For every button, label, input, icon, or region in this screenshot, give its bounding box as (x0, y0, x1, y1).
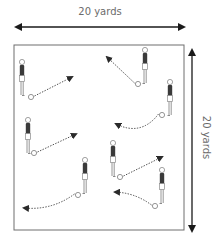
player-shorts-icon (20, 76, 25, 82)
player-head-icon (159, 167, 164, 172)
player-C (116, 79, 173, 128)
ball-icon (75, 192, 80, 197)
pass-arrow-icon (24, 194, 75, 208)
player-shorts-icon (83, 174, 88, 180)
player-head-icon (25, 117, 30, 122)
pass-arrow-icon (124, 157, 163, 176)
player-shirt-icon (168, 85, 172, 96)
player-shorts-icon (111, 157, 116, 163)
drill-diagram (0, 0, 222, 242)
player-head-icon (167, 79, 172, 84)
player-shorts-icon (168, 96, 173, 102)
player-A (19, 59, 72, 99)
ball-icon (135, 81, 140, 86)
width-label: 20 yards (70, 6, 130, 17)
player-shorts-icon (143, 64, 148, 70)
pass-arrow-icon (116, 114, 159, 128)
player-head-icon (142, 47, 147, 52)
player-shorts-icon (160, 184, 165, 190)
ball-icon (28, 94, 33, 99)
player-shirt-icon (20, 65, 24, 76)
field-boundary (14, 45, 184, 230)
player-shirt-icon (160, 173, 164, 184)
player-D (25, 117, 76, 155)
pass-arrow-icon (107, 57, 135, 83)
player-shirt-icon (143, 53, 147, 64)
player-G (115, 167, 165, 208)
player-head-icon (82, 157, 87, 162)
player-shirt-icon (111, 146, 115, 157)
pass-arrow-icon (115, 192, 152, 205)
player-shirt-icon (26, 123, 30, 134)
player-head-icon (110, 140, 115, 145)
player-E (110, 140, 162, 179)
height-label: 20 yards (201, 108, 212, 168)
player-shirt-icon (83, 163, 87, 174)
player-B (107, 47, 148, 86)
player-head-icon (19, 59, 24, 64)
ball-icon (117, 174, 122, 179)
player-F (24, 157, 88, 208)
pass-arrow-icon (38, 134, 77, 152)
pass-arrow-icon (35, 77, 73, 96)
players-layer (19, 47, 172, 208)
ball-icon (152, 203, 157, 208)
ball-icon (31, 150, 36, 155)
player-shorts-icon (26, 134, 31, 140)
ball-icon (159, 112, 164, 117)
